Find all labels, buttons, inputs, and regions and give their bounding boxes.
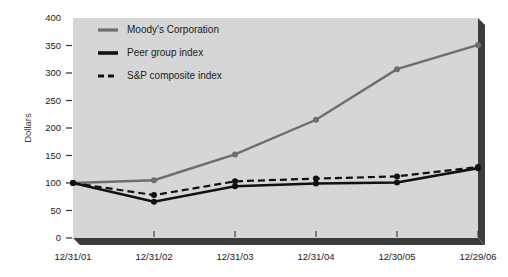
- plot-frame-right-bevel: [478, 18, 485, 245]
- plot-frame-bottom-bevel: [73, 238, 485, 245]
- y-axis-tick-label: 100: [45, 177, 61, 188]
- data-point-marker: [475, 42, 481, 48]
- legend-label: Peer group index: [127, 47, 203, 58]
- data-point-marker: [70, 180, 76, 186]
- data-point-marker: [394, 179, 400, 185]
- y-axis-tick-label: 250: [45, 95, 61, 106]
- x-axis-tick-labels: 12/31/0112/31/0212/31/0312/31/0412/30/05…: [55, 251, 497, 262]
- data-point-marker: [151, 177, 157, 183]
- y-axis-tick-label: 50: [50, 205, 61, 216]
- data-point-marker: [232, 178, 238, 184]
- y-axis-tick-label: 400: [45, 12, 61, 23]
- data-point-marker: [394, 173, 400, 179]
- y-axis-tick-label: 150: [45, 150, 61, 161]
- data-point-marker: [151, 192, 157, 198]
- stock-performance-chart: 050100150200250300350400 Dollars 12/31/0…: [0, 0, 508, 277]
- y-axis-title: Dollars: [22, 113, 33, 143]
- x-axis-tick-label: 12/31/02: [136, 251, 173, 262]
- y-axis-ticks: 050100150200250300350400: [45, 12, 72, 243]
- x-axis-tick-label: 12/29/06: [460, 251, 497, 262]
- y-axis-tick-label: 200: [45, 122, 61, 133]
- x-axis-tick-label: 12/31/04: [298, 251, 335, 262]
- x-axis-tick-label: 12/31/01: [55, 251, 92, 262]
- data-point-marker: [313, 176, 319, 182]
- data-point-marker: [475, 164, 481, 170]
- data-point-marker: [313, 117, 319, 123]
- x-axis-tick-label: 12/31/03: [217, 251, 254, 262]
- legend-label: S&P composite index: [127, 70, 222, 81]
- legend-label: Moody's Corporation: [127, 24, 219, 35]
- x-axis-tick-label: 12/30/05: [379, 251, 416, 262]
- data-point-marker: [232, 151, 238, 157]
- y-axis-tick-label: 0: [56, 232, 61, 243]
- chart-canvas: 050100150200250300350400 Dollars 12/31/0…: [0, 0, 508, 277]
- data-point-marker: [151, 199, 157, 205]
- y-axis-tick-label: 350: [45, 40, 61, 51]
- y-axis-tick-label: 300: [45, 67, 61, 78]
- data-point-marker: [394, 66, 400, 72]
